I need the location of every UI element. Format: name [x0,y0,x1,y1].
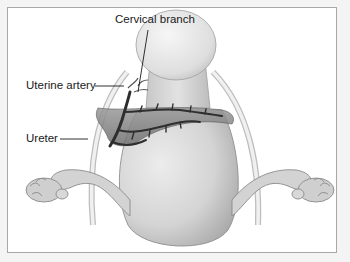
label-ureter: Ureter [26,133,58,145]
uterus-illustration [0,0,350,262]
right-adnexa [232,170,334,216]
label-cervical-branch: Cervical branch [115,14,195,26]
label-uterine-artery: Uterine artery [26,80,96,92]
left-adnexa [26,170,130,216]
